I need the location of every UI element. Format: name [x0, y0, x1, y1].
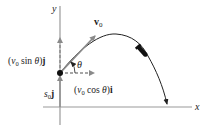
origin-point: [57, 70, 63, 76]
vertical-component-label: (v0 sin θ)j: [8, 56, 46, 67]
initial-position-label: s0j: [44, 89, 54, 100]
projectile-diagram: y x θ v0 (v0 sin θ)j (v0 cos θ)i s0j: [0, 0, 209, 133]
axes: y x: [43, 3, 200, 125]
y-axis-label: y: [51, 3, 57, 14]
theta-label: θ: [77, 59, 82, 70]
horizontal-component-label: (v0 cos θ)i: [74, 85, 113, 96]
theta-arc: [71, 62, 75, 73]
v0-label: v0: [94, 16, 103, 29]
x-axis-label: x: [194, 101, 200, 112]
projectile-icon: [135, 44, 149, 59]
